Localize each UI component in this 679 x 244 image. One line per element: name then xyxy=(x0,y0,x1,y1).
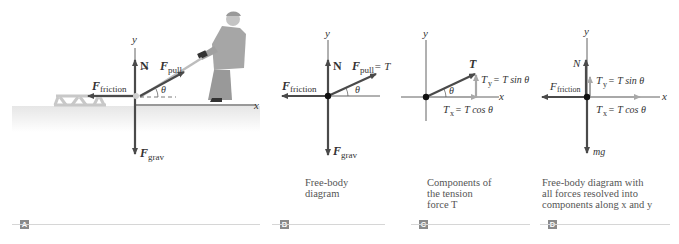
svg-text:y: y xyxy=(488,79,492,88)
svg-text:y: y xyxy=(603,80,607,89)
svg-text:pull: pull xyxy=(168,65,183,75)
normal-label: N xyxy=(572,57,581,69)
theta-label: θ xyxy=(355,84,360,95)
svg-text:= T sin θ: = T sin θ xyxy=(608,75,644,86)
tx-label: T xyxy=(596,103,603,115)
ty-label: T xyxy=(481,73,488,85)
caption-d: Free-body diagram with all forces resolv… xyxy=(542,177,652,210)
svg-text:grav: grav xyxy=(341,150,357,160)
friction-label: F xyxy=(91,79,100,93)
mg-label: mg xyxy=(593,146,605,157)
svg-text:friction: friction xyxy=(557,85,581,94)
svg-text:pull: pull xyxy=(360,65,375,75)
svg-text:x: x xyxy=(603,109,607,118)
y-axis-label: y xyxy=(583,25,589,37)
pull-label: F xyxy=(351,59,360,73)
tension-label: T xyxy=(469,57,477,71)
person-illustration xyxy=(197,11,246,102)
x-axis-label: x xyxy=(498,90,504,102)
svg-text:N: N xyxy=(140,59,149,73)
svg-text:friction: friction xyxy=(290,84,317,94)
panel-b-free-body: y θ N F pull = T F friction F grav Free-… xyxy=(260,0,385,244)
normal-label: N xyxy=(333,59,342,73)
grav-label: F xyxy=(332,144,341,158)
y-axis-label: y xyxy=(131,33,137,45)
panel-rule-a xyxy=(12,224,260,225)
caption-b: Free-body diagram xyxy=(305,177,348,199)
pull-label: F xyxy=(159,59,168,73)
panel-c-components: y x θ T T y = T sin θ T x = T cos θ Comp… xyxy=(395,0,530,244)
tx-label: T xyxy=(443,103,450,115)
sled-icon xyxy=(54,96,138,105)
svg-text:= T cos θ: = T cos θ xyxy=(455,104,493,115)
svg-text:grav: grav xyxy=(148,152,164,162)
sled-pull-illustration: y x θ → N F pull F friction F grav xyxy=(0,0,260,244)
theta-label: θ xyxy=(449,85,454,96)
svg-text:= T: = T xyxy=(374,60,391,72)
y-axis-label: y xyxy=(324,27,330,39)
panel-d-resolved: y x N T y = T sin θ F friction T x = T c… xyxy=(530,0,679,244)
friction-label: F xyxy=(281,79,290,93)
panel-a-scene: y x θ → N F pull F friction F grav A xyxy=(0,0,260,244)
svg-text:friction: friction xyxy=(100,84,127,94)
x-axis-label: x xyxy=(661,90,667,102)
grav-label: F xyxy=(139,146,148,160)
ty-label: T xyxy=(596,74,603,86)
y-axis-label: y xyxy=(422,27,428,39)
x-axis-label: x xyxy=(253,99,259,111)
panel-rule-c xyxy=(411,224,530,225)
svg-text:= T sin θ: = T sin θ xyxy=(493,74,529,85)
theta-label: θ xyxy=(161,84,166,95)
panel-rule-d xyxy=(540,224,670,225)
free-body-diagram: y θ N F pull = T F friction F grav xyxy=(260,0,385,244)
caption-c: Components of the tension force T xyxy=(427,177,491,210)
friction-label: F xyxy=(549,80,557,92)
svg-text:= T cos θ: = T cos θ xyxy=(608,104,646,115)
svg-text:x: x xyxy=(450,109,454,118)
panel-rule-b xyxy=(272,224,385,225)
pull-force-arrow xyxy=(328,74,376,96)
